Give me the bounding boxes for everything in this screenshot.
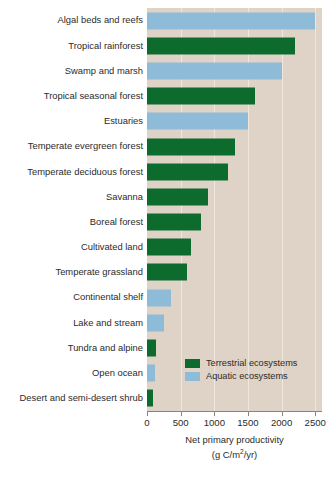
bar-row: Algal beds and reefs <box>0 8 330 33</box>
bar <box>147 138 235 155</box>
legend-label: Aquatic ecosystems <box>206 371 288 381</box>
x-axis-tick-label: 0 <box>144 417 149 428</box>
bar-cell <box>147 260 330 285</box>
bar <box>147 390 153 407</box>
legend-swatch-icon <box>185 372 200 381</box>
x-axis-tick-label: 1000 <box>204 417 225 428</box>
bar-cell <box>147 386 330 411</box>
legend-label: Terrestrial ecosystems <box>206 358 297 368</box>
bar-row: Savanna <box>0 184 330 209</box>
bar <box>147 37 295 54</box>
bar <box>147 365 155 382</box>
bar-row: Boreal forest <box>0 210 330 235</box>
bar-cell <box>147 285 330 310</box>
x-axis-tick-label: 1500 <box>237 417 258 428</box>
bar-row: Lake and stream <box>0 310 330 335</box>
bar-cell <box>147 210 330 235</box>
x-axis-title: Net primary productivity <box>147 434 322 445</box>
bar-row: Tropical seasonal forest <box>0 84 330 109</box>
category-label: Temperate evergreen forest <box>0 141 147 151</box>
category-label: Tropical rainforest <box>0 41 147 51</box>
chart-legend: Terrestrial ecosystemsAquatic ecosystems <box>185 358 297 384</box>
bar <box>147 264 187 281</box>
bar <box>147 314 164 331</box>
bar <box>147 214 201 231</box>
bar-cell <box>147 8 330 33</box>
x-axis-tick <box>282 411 283 416</box>
bar-row: Temperate deciduous forest <box>0 159 330 184</box>
bar <box>147 340 156 357</box>
x-axis-line <box>147 411 322 412</box>
bar-cell <box>147 235 330 260</box>
bar-rows: Algal beds and reefsTropical rainforestS… <box>0 8 330 411</box>
bar <box>147 88 255 105</box>
bar-cell <box>147 159 330 184</box>
x-axis-tick-label: 2000 <box>271 417 292 428</box>
x-axis-tick-label: 2500 <box>305 417 326 428</box>
x-axis-tick-label: 500 <box>173 417 189 428</box>
bar-cell <box>147 184 330 209</box>
bar-cell <box>147 310 330 335</box>
category-label: Temperate grassland <box>0 267 147 277</box>
bar-cell <box>147 335 330 360</box>
category-label: Algal beds and reefs <box>0 15 147 25</box>
bar-row: Continental shelf <box>0 285 330 310</box>
chart-figure: Algal beds and reefsTropical rainforestS… <box>0 0 330 480</box>
legend-item: Terrestrial ecosystems <box>185 358 297 368</box>
category-label: Estuaries <box>0 116 147 126</box>
x-axis-units: (g C/m2/yr) <box>147 448 322 460</box>
bar <box>147 163 228 180</box>
bar-row: Tropical rainforest <box>0 33 330 58</box>
bar-row: Swamp and marsh <box>0 58 330 83</box>
bar <box>147 239 191 256</box>
legend-item: Aquatic ecosystems <box>185 371 297 381</box>
category-label: Boreal forest <box>0 217 147 227</box>
units-prefix: (g C/m <box>212 449 240 460</box>
x-axis-tick <box>181 411 182 416</box>
category-label: Cultivated land <box>0 242 147 252</box>
bar <box>147 62 282 79</box>
category-label: Savanna <box>0 192 147 202</box>
bar-cell <box>147 58 330 83</box>
bar-row: Cultivated land <box>0 235 330 260</box>
bar-cell <box>147 33 330 58</box>
bar-row: Temperate evergreen forest <box>0 134 330 159</box>
category-label: Desert and semi-desert shrub <box>0 393 147 403</box>
x-axis-tick <box>248 411 249 416</box>
legend-swatch-icon <box>185 359 200 368</box>
bar <box>147 289 171 306</box>
bar <box>147 12 315 29</box>
category-label: Tropical seasonal forest <box>0 91 147 101</box>
category-label: Swamp and marsh <box>0 66 147 76</box>
units-suffix: /yr) <box>244 449 258 460</box>
category-label: Temperate deciduous forest <box>0 167 147 177</box>
x-axis-tick <box>147 411 148 416</box>
category-label: Continental shelf <box>0 292 147 302</box>
bar-cell <box>147 84 330 109</box>
bar-cell <box>147 134 330 159</box>
category-label: Tundra and alpine <box>0 343 147 353</box>
bar-row: Estuaries <box>0 109 330 134</box>
category-label: Open ocean <box>0 368 147 378</box>
bar-row: Temperate grassland <box>0 260 330 285</box>
x-axis-tick <box>315 411 316 416</box>
bar <box>147 113 248 130</box>
bar-cell <box>147 109 330 134</box>
category-label: Lake and stream <box>0 318 147 328</box>
bar-row: Tundra and alpine <box>0 335 330 360</box>
bar <box>147 188 208 205</box>
x-axis-tick <box>214 411 215 416</box>
bar-row: Desert and semi-desert shrub <box>0 386 330 411</box>
